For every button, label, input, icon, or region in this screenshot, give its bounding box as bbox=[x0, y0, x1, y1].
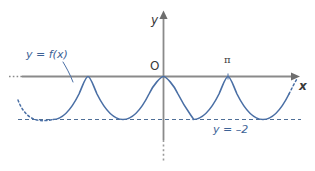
x-axis-label: x bbox=[299, 80, 307, 92]
pi-tick-label: π bbox=[224, 55, 231, 65]
curve-dotted-left-end bbox=[18, 100, 53, 121]
function-graph-figure: y = f(x) y = –2 y x O π bbox=[0, 0, 315, 171]
curve-label: y = f(x) bbox=[26, 49, 68, 60]
origin-label: O bbox=[150, 60, 159, 72]
function-curve bbox=[53, 77, 289, 120]
curve-dotted-right-end bbox=[289, 78, 298, 94]
y-axis-arrowhead bbox=[159, 11, 167, 20]
asymptote-label: y = –2 bbox=[213, 124, 248, 135]
curve-label-leader-line bbox=[63, 62, 73, 82]
y-axis-label: y bbox=[151, 14, 158, 26]
